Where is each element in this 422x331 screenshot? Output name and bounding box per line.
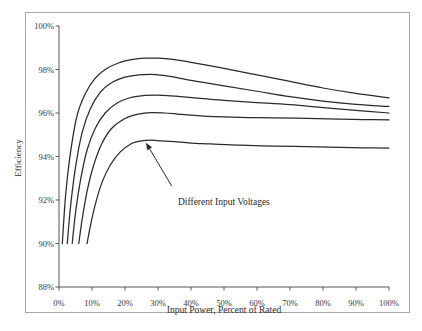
annotation-arrow-line <box>146 143 171 186</box>
y-tick-98: 98% <box>28 65 54 75</box>
series-line-5 <box>87 140 389 243</box>
x-tick-90: 90% <box>348 298 364 308</box>
x-axis-title: Input Power, Percent of Rated <box>167 305 281 315</box>
efficiency-line-chart <box>0 0 422 331</box>
y-tick-96: 96% <box>28 108 54 118</box>
annotation-label: Different Input Voltages <box>178 197 270 207</box>
y-tick-94: 94% <box>28 152 54 162</box>
x-tick-100: 100% <box>379 298 399 308</box>
x-tick-30: 30% <box>150 298 166 308</box>
y-axis-title: Efficiency <box>13 139 23 176</box>
x-tick-0: 0% <box>53 298 64 308</box>
chart-figure: 88%90%92%94%96%98%100% 0%10%20%30%40%50%… <box>0 0 422 331</box>
y-tick-90: 90% <box>28 239 54 249</box>
y-tick-92: 92% <box>28 195 54 205</box>
series-line-2 <box>67 74 389 243</box>
x-tick-80: 80% <box>315 298 331 308</box>
y-tick-100: 100% <box>28 21 54 31</box>
series-line-4 <box>79 113 389 244</box>
annotation-arrow-head <box>146 143 151 149</box>
chart-series-curves <box>62 58 389 243</box>
annotation-arrow <box>146 143 171 186</box>
x-tick-10: 10% <box>84 298 100 308</box>
y-tick-88: 88% <box>28 282 54 292</box>
x-tick-70: 70% <box>282 298 298 308</box>
chart-axes <box>56 26 390 291</box>
x-tick-20: 20% <box>117 298 133 308</box>
